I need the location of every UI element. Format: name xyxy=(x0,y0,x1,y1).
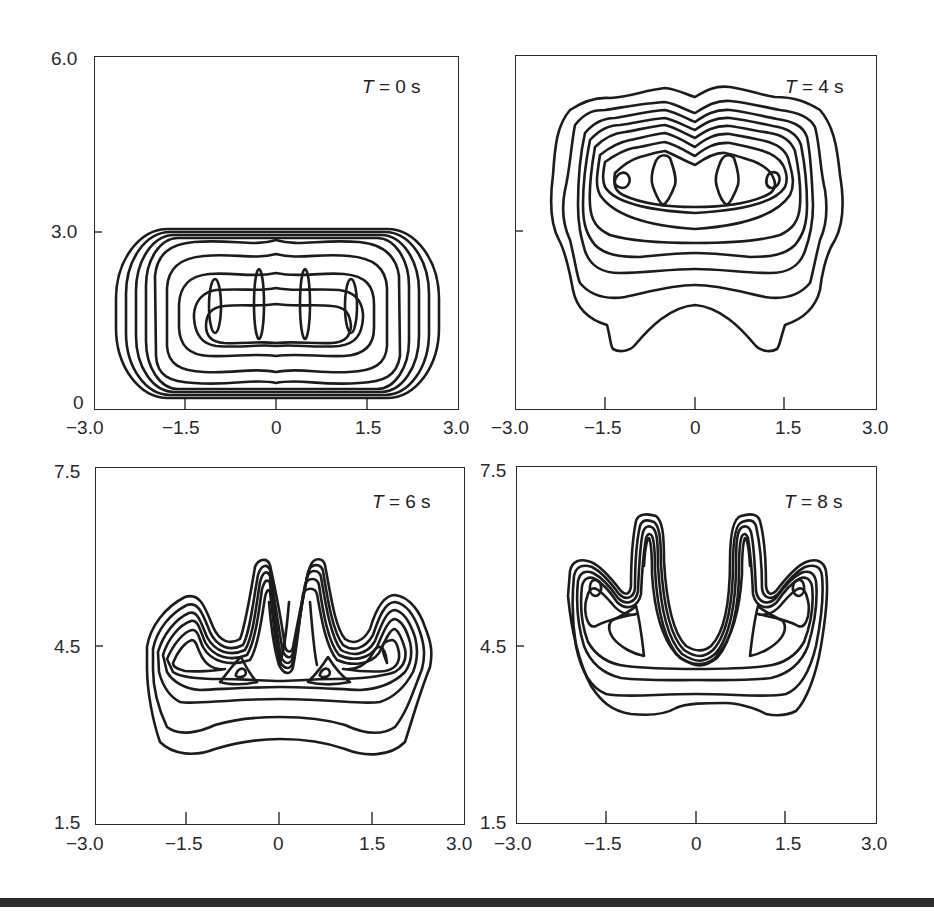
time-value: = 0 s xyxy=(374,76,421,97)
time-variable: T xyxy=(785,76,797,97)
y-tick-label: 7.5 xyxy=(54,462,80,481)
x-tick-label: 3.0 xyxy=(861,834,887,853)
x-tick-label: 1.5 xyxy=(775,418,801,437)
x-tick-label: −1.5 xyxy=(165,834,203,853)
x-tick-label: −1.5 xyxy=(584,834,622,853)
x-tick-label: 3.0 xyxy=(443,418,469,437)
y-tick-label: 6.0 xyxy=(51,49,77,68)
y-tick-label: 1.5 xyxy=(54,813,80,832)
y-tick-label: 3.0 xyxy=(51,222,77,241)
x-tick-label: 0 xyxy=(273,834,284,853)
x-tick-label: 1.5 xyxy=(355,418,381,437)
x-tick-label: −3.0 xyxy=(66,834,104,853)
contour-figure: T = 0 s 6.0 3.0 0 −3.0 −1.5 0 1.5 3.0 xyxy=(0,0,934,911)
x-tick-label: −1.5 xyxy=(584,418,622,437)
contour-plot xyxy=(515,55,877,410)
time-value: = 8 s xyxy=(796,491,843,512)
x-tick-label: −3.0 xyxy=(494,834,532,853)
panel-title: T = 0 s xyxy=(362,77,421,96)
panel-title: T = 8 s xyxy=(784,492,843,511)
y-tick-label: 0 xyxy=(73,393,84,412)
contour-plot xyxy=(94,56,459,410)
x-tick-label: 3.0 xyxy=(862,418,888,437)
time-variable: T xyxy=(372,491,384,512)
panel-title: T = 6 s xyxy=(372,492,431,511)
time-value: = 6 s xyxy=(384,491,431,512)
time-variable: T xyxy=(784,491,796,512)
contour-plot xyxy=(516,466,877,824)
y-tick-label: 7.5 xyxy=(480,461,506,480)
panel-title: T = 4 s xyxy=(785,77,844,96)
y-tick-label: 4.5 xyxy=(54,637,80,656)
x-tick-label: 0 xyxy=(691,834,702,853)
x-tick-label: 3.0 xyxy=(446,834,472,853)
x-tick-label: −1.5 xyxy=(162,418,200,437)
y-tick-label: 4.5 xyxy=(480,637,506,656)
y-tick-label: 1.5 xyxy=(480,813,506,832)
time-variable: T xyxy=(362,76,374,97)
time-value: = 4 s xyxy=(797,76,844,97)
x-tick-label: −3.0 xyxy=(66,418,104,437)
x-tick-label: 0 xyxy=(690,418,701,437)
x-tick-label: 1.5 xyxy=(359,834,385,853)
contour-plot xyxy=(95,467,465,825)
x-tick-label: 0 xyxy=(271,418,282,437)
x-tick-label: 1.5 xyxy=(775,834,801,853)
x-tick-label: −3.0 xyxy=(491,418,529,437)
bottom-rule-divider xyxy=(0,898,934,907)
